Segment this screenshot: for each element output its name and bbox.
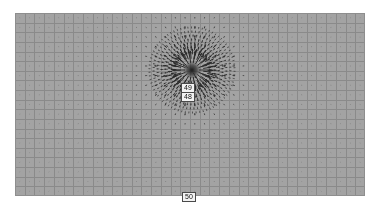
- figure-root: 49 48 50: [0, 0, 380, 210]
- value-label-bottom[interactable]: 50: [182, 192, 196, 202]
- value-label-lower[interactable]: 48: [181, 92, 195, 102]
- vector-field-plot: [15, 13, 365, 196]
- vector-field-layer: [15, 13, 365, 196]
